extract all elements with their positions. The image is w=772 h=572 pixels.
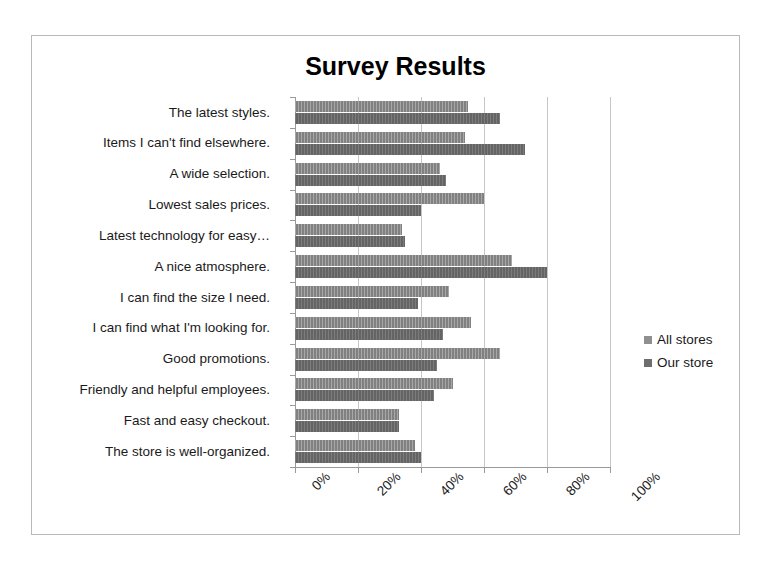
chart-legend: All storesOur store: [644, 328, 739, 374]
category-label: Latest technology for easy…: [46, 220, 274, 251]
bar: [295, 163, 440, 174]
category-axis: The latest styles.Items I can't find els…: [46, 97, 274, 467]
legend-entry[interactable]: All stores: [644, 328, 739, 351]
category-label: Friendly and helpful employees.: [46, 374, 274, 405]
plot-area: [295, 97, 610, 467]
bar: [295, 329, 443, 340]
category-label: A nice atmosphere.: [46, 251, 274, 282]
bar-group: [295, 436, 610, 467]
category-label: The store is well-organized.: [46, 436, 274, 467]
legend-label: Our store: [657, 355, 713, 370]
bar: [295, 317, 471, 328]
value-tick-label: 40%: [437, 469, 467, 499]
category-label: A wide selection.: [46, 159, 274, 190]
bar: [295, 360, 437, 371]
bar: [295, 390, 434, 401]
bar-group: [295, 128, 610, 159]
value-tick-label: 100%: [628, 469, 663, 504]
bar: [295, 236, 405, 247]
value-tick-label: 80%: [563, 469, 593, 499]
value-axis-line: [295, 467, 610, 468]
legend-swatch-icon: [644, 359, 652, 367]
bar: [295, 409, 399, 420]
bar-group: [295, 220, 610, 251]
bar-group: [295, 190, 610, 221]
bar-group: [295, 282, 610, 313]
bar-group: [295, 97, 610, 128]
bar: [295, 193, 484, 204]
bar: [295, 348, 500, 359]
bar-group: [295, 375, 610, 406]
chart-frame: Survey Results The latest styles.Items I…: [31, 35, 740, 535]
gridline: [610, 97, 611, 467]
bar-group: [295, 344, 610, 375]
category-label: The latest styles.: [46, 97, 274, 128]
category-label: I can find the size I need.: [46, 282, 274, 313]
category-label: Good promotions.: [46, 344, 274, 375]
bar: [295, 132, 465, 143]
bar: [295, 267, 547, 278]
value-tick-label: 60%: [500, 469, 530, 499]
bar: [295, 298, 418, 309]
bar-group: [295, 159, 610, 190]
value-tick-label: 20%: [374, 469, 404, 499]
bar: [295, 224, 402, 235]
legend-label: All stores: [657, 332, 713, 347]
bar: [295, 452, 421, 463]
bar-group: [295, 405, 610, 436]
bar: [295, 255, 512, 266]
bar: [295, 378, 453, 389]
category-label: Fast and easy checkout.: [46, 405, 274, 436]
legend-swatch-icon: [644, 336, 652, 344]
value-axis-tick-labels: 0%20%40%60%80%100%: [295, 469, 635, 525]
bar-group: [295, 313, 610, 344]
chart-title: Survey Results: [32, 52, 739, 81]
legend-entry[interactable]: Our store: [644, 351, 739, 374]
bar: [295, 205, 421, 216]
bar: [295, 175, 446, 186]
bar: [295, 101, 468, 112]
bar: [295, 286, 449, 297]
bar: [295, 113, 500, 124]
bar-group: [295, 251, 610, 282]
bar: [295, 421, 399, 432]
bar: [295, 440, 415, 451]
bar: [295, 144, 525, 155]
category-label: Items I can't find elsewhere.: [46, 128, 274, 159]
bars-layer: [295, 97, 610, 467]
value-tick-label: 0%: [309, 469, 333, 493]
category-label: Lowest sales prices.: [46, 189, 274, 220]
category-label: I can find what I'm looking for.: [46, 313, 274, 344]
